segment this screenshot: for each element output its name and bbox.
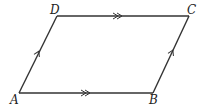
- vertex-label-a: A: [9, 93, 19, 107]
- edge-ad: [19, 16, 57, 93]
- vertex-label-b: B: [148, 93, 158, 107]
- parallelogram-diagram: A B C D: [0, 0, 203, 107]
- vertex-label-d: D: [49, 3, 60, 17]
- vertex-label-c: C: [187, 3, 196, 17]
- edge-bc: [153, 16, 189, 93]
